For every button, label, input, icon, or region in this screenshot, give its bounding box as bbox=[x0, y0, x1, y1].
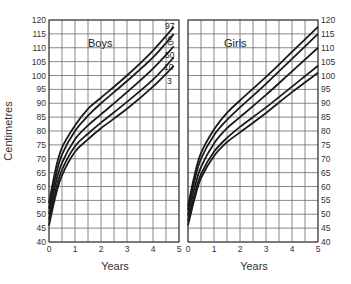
x-tick-label: 2 bbox=[99, 244, 104, 254]
y-tick-label: 80 bbox=[37, 126, 47, 136]
y-tick-label: 95 bbox=[321, 84, 331, 94]
y-tick-label: 75 bbox=[321, 140, 331, 150]
y-tick-label: 105 bbox=[321, 57, 335, 67]
y-tick-label: 55 bbox=[37, 195, 47, 205]
y-tick-label: 75 bbox=[37, 140, 47, 150]
y-tick-label: 100 bbox=[32, 71, 46, 81]
y-tick-label: 80 bbox=[321, 126, 331, 136]
y-tick-label: 50 bbox=[37, 209, 47, 219]
percentile-label-10: 10 bbox=[164, 62, 174, 72]
x-tick-label: 0 bbox=[47, 244, 52, 254]
x-tick-label: 4 bbox=[290, 244, 295, 254]
girls-panel-title: Girls bbox=[224, 37, 247, 49]
y-tick-label: 120 bbox=[32, 15, 46, 25]
y-tick-label: 105 bbox=[32, 57, 46, 67]
boys-panel: 4045505560657075808590951001051101151200… bbox=[32, 15, 182, 254]
growth-chart: 4045505560657075808590951001051101151200… bbox=[0, 0, 351, 284]
x-tick-label: 3 bbox=[125, 244, 130, 254]
y-tick-label: 55 bbox=[321, 195, 331, 205]
y-tick-label: 115 bbox=[321, 29, 335, 39]
x-tick-label: 4 bbox=[151, 244, 156, 254]
x-tick-label: 5 bbox=[177, 244, 182, 254]
y-tick-label: 120 bbox=[321, 15, 335, 25]
percentile-label-90: 90 bbox=[164, 35, 177, 48]
y-tick-label: 110 bbox=[321, 43, 335, 53]
y-tick-label: 70 bbox=[37, 154, 47, 164]
y-tick-label: 60 bbox=[37, 182, 47, 192]
percentile-label-97: 97 bbox=[165, 21, 175, 31]
y-tick-label: 65 bbox=[321, 168, 331, 178]
percentile-label-50: 50 bbox=[165, 50, 175, 60]
x-tick-label: 2 bbox=[238, 244, 243, 254]
boys-panel-title: Boys bbox=[88, 37, 113, 49]
y-tick-label: 90 bbox=[37, 98, 47, 108]
y-tick-label: 110 bbox=[32, 43, 46, 53]
y-tick-label: 45 bbox=[321, 223, 331, 233]
girls-panel: 4045505560657075808590951001051101151200… bbox=[186, 15, 336, 254]
x-tick-label: 1 bbox=[73, 244, 78, 254]
percentile-label-3: 3 bbox=[167, 76, 172, 86]
y-tick-label: 65 bbox=[37, 168, 47, 178]
y-tick-label: 60 bbox=[321, 182, 331, 192]
y-tick-label: 115 bbox=[32, 29, 46, 39]
x-tick-label: 0 bbox=[186, 244, 191, 254]
y-tick-label: 70 bbox=[321, 154, 331, 164]
x-tick-label: 3 bbox=[264, 244, 269, 254]
y-tick-label: 85 bbox=[37, 112, 47, 122]
growth-chart-svg: 4045505560657075808590951001051101151200… bbox=[0, 0, 351, 284]
y-tick-label: 90 bbox=[321, 98, 331, 108]
y-tick-label: 85 bbox=[321, 112, 331, 122]
y-tick-label: 50 bbox=[321, 209, 331, 219]
x-tick-label: 5 bbox=[316, 244, 321, 254]
y-tick-label: 45 bbox=[37, 223, 47, 233]
x-axis-title-girls: Years bbox=[240, 260, 268, 272]
y-tick-label: 40 bbox=[37, 237, 47, 247]
y-tick-label: 40 bbox=[321, 237, 331, 247]
y-tick-label: 100 bbox=[321, 71, 335, 81]
y-tick-label: 95 bbox=[37, 84, 47, 94]
x-axis-title-boys: Years bbox=[101, 260, 129, 272]
boys-percentile-50-curve bbox=[49, 46, 174, 214]
y-axis-title: Centimetres bbox=[2, 101, 14, 161]
x-tick-label: 1 bbox=[212, 244, 217, 254]
